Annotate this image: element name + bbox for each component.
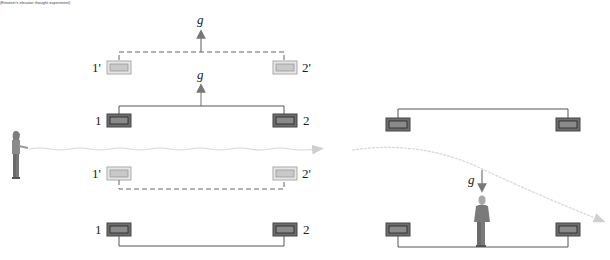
- clock-right-lower-left: [386, 223, 410, 236]
- clock-2-upper: [273, 114, 297, 127]
- clock-label-1: 1: [95, 113, 102, 128]
- observer-person-right: [474, 196, 490, 248]
- clock-1-lower: [107, 223, 131, 236]
- observer-person-left: [12, 131, 28, 179]
- clock-label-1-prime: 1': [92, 60, 101, 75]
- clock-label-2: 2: [303, 113, 310, 128]
- dashed-connection-lower: [119, 180, 284, 189]
- clock-label-2-prime-lower: 2': [302, 166, 311, 181]
- diagram-canvas: g 1' 2' g 1 2: [0, 0, 610, 260]
- clock-label-1-lower: 1: [95, 222, 102, 237]
- clock-2-prime-lower: [273, 167, 297, 180]
- clock-label-2-prime: 2': [302, 60, 311, 75]
- clock-1-prime-upper: [107, 61, 131, 74]
- gravity-label-unprimed: g: [197, 67, 204, 82]
- clock-label-2-lower: 2: [303, 222, 310, 237]
- gravity-label-right: g: [468, 172, 475, 187]
- clock-2-prime-upper: [273, 61, 297, 74]
- gravity-label-primed: g: [197, 12, 204, 27]
- light-beam-straight: [29, 148, 318, 150]
- solid-connection-lower: [119, 236, 284, 246]
- clock-1-upper: [107, 114, 131, 127]
- clock-right-upper-right: [556, 118, 580, 131]
- clock-label-1-prime-lower: 1': [92, 166, 101, 181]
- solid-connection-upper: [119, 106, 284, 114]
- clock-right-upper-left: [386, 118, 410, 131]
- clock-2-lower: [273, 223, 297, 236]
- solid-connection-right-upper: [398, 109, 568, 118]
- dashed-connection-upper: [119, 52, 284, 60]
- clock-1-prime-lower: [107, 167, 131, 180]
- clock-right-lower-right: [556, 223, 580, 236]
